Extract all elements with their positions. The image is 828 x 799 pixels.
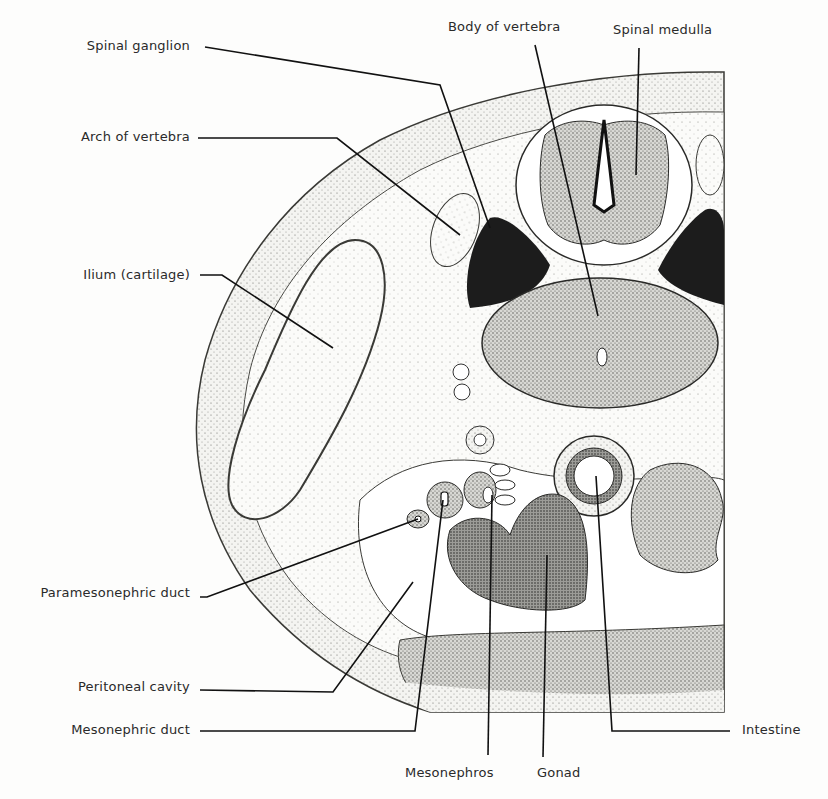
label-mesonephros: Mesonephros	[405, 765, 494, 781]
label-gonad: Gonad	[537, 765, 581, 781]
label-spinal-ganglion: Spinal ganglion	[87, 38, 190, 54]
label-arch-of-vertebra: Arch of vertebra	[81, 129, 190, 145]
body-of-vertebra	[482, 278, 718, 408]
label-intestine: Intestine	[742, 722, 801, 738]
notochord	[597, 348, 607, 366]
anatomy-figure: Spinal ganglion Arch of vertebra Ilium (…	[0, 0, 828, 799]
label-spinal-medulla: Spinal medulla	[613, 22, 712, 38]
intestine-lumen	[574, 456, 614, 496]
label-body-of-vertebra: Body of vertebra	[448, 19, 561, 35]
right-organ	[631, 463, 723, 572]
vessel	[453, 364, 469, 380]
label-paramesonephric-duct: Paramesonephric duct	[40, 585, 190, 601]
label-ilium: Ilium (cartilage)	[83, 267, 190, 283]
arch-right	[696, 135, 724, 195]
label-mesonephric-duct: Mesonephric duct	[71, 722, 190, 738]
label-peritoneal-cavity: Peritoneal cavity	[78, 679, 190, 695]
vessel	[454, 384, 470, 400]
vessel	[474, 434, 486, 446]
